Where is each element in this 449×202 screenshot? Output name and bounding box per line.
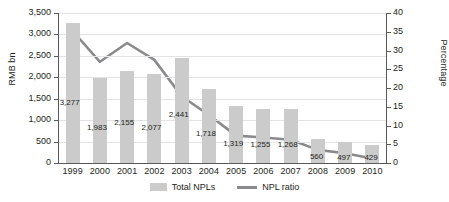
x-tick-label: 2002 [141, 166, 168, 176]
y-tick-label-left: 2,000 [3, 71, 51, 81]
y-tick-label-right: 15 [393, 101, 419, 111]
y-tick-label-right: 10 [393, 120, 419, 130]
y-axis-label-right: Percentage [439, 28, 449, 98]
bar-value-label: 2,441 [169, 110, 189, 119]
x-tick-label: 2009 [332, 166, 359, 176]
bar-value-label: 1,255 [250, 140, 270, 149]
y-tick-right [387, 144, 391, 145]
y-tick-left [54, 56, 58, 57]
x-tick-label: 1999 [59, 166, 86, 176]
y-tick-right [387, 88, 391, 89]
bar [147, 74, 161, 163]
bar-value-label: 1,268 [278, 140, 298, 149]
y-tick-right [387, 32, 391, 33]
line-swatch-icon [237, 186, 257, 189]
y-tick-left [54, 120, 58, 121]
bar [202, 89, 216, 163]
x-tick-label: 2007 [277, 166, 304, 176]
y-tick-label-left: 0 [3, 157, 51, 167]
y-tick-label-right: 20 [393, 82, 419, 92]
x-tick-label: 2004 [195, 166, 222, 176]
bar-value-label: 560 [310, 152, 323, 161]
y-tick-label-right: 30 [393, 45, 419, 55]
y-tick-right [387, 107, 391, 108]
y-tick-left [54, 77, 58, 78]
bar-swatch-icon [150, 183, 167, 191]
y-tick-label-left: 3,000 [3, 28, 51, 38]
legend-label-npl-ratio: NPL ratio [262, 182, 299, 192]
y-tick-label-right: 0 [393, 157, 419, 167]
y-tick-left [54, 13, 58, 14]
bar [120, 71, 134, 163]
gridline [59, 56, 386, 57]
y-tick-label-left: 500 [3, 136, 51, 146]
bar-value-label: 2,077 [141, 123, 161, 132]
gridline [59, 99, 386, 100]
y-tick-left [54, 34, 58, 35]
gridline [59, 77, 386, 78]
axis-line-bottom [58, 163, 387, 164]
npl-chart: RMB bn Percentage 05001,0001,5002,0002,5… [0, 0, 449, 202]
y-tick-right [387, 51, 391, 52]
y-tick-label-right: 5 [393, 138, 419, 148]
x-tick-label: 2010 [359, 166, 386, 176]
gridline [59, 13, 386, 14]
legend-item-npl-ratio: NPL ratio [237, 182, 299, 192]
bar [284, 109, 298, 163]
x-tick-label: 2000 [86, 166, 113, 176]
y-tick-label-right: 25 [393, 63, 419, 73]
legend-label-total-npls: Total NPLs [172, 182, 216, 192]
bar-value-label: 1,983 [87, 123, 107, 132]
y-tick-label-right: 40 [393, 7, 419, 17]
legend-item-total-npls: Total NPLs [150, 182, 216, 192]
x-tick-label: 2001 [114, 166, 141, 176]
y-tick-label-left: 3,500 [3, 7, 51, 17]
y-tick-left [54, 142, 58, 143]
y-tick-label-left: 1,000 [3, 114, 51, 124]
gridline [59, 34, 386, 35]
y-tick-right [387, 163, 391, 164]
bar [66, 23, 80, 163]
bar-value-label: 1,319 [223, 139, 243, 148]
bar-value-label: 429 [364, 153, 377, 162]
bar [256, 109, 270, 163]
bar-value-label: 3,277 [60, 98, 80, 107]
y-tick-label-left: 1,500 [3, 93, 51, 103]
y-tick-right [387, 69, 391, 70]
bar-value-label: 1,718 [196, 129, 216, 138]
bar-value-label: 2,155 [114, 118, 134, 127]
legend: Total NPLs NPL ratio [0, 182, 449, 192]
x-tick-label: 2005 [223, 166, 250, 176]
x-tick-label: 2008 [304, 166, 331, 176]
y-tick-left [54, 163, 58, 164]
y-axis-label-left: RMB bn [7, 39, 17, 99]
x-tick-label: 2006 [250, 166, 277, 176]
y-tick-left [54, 99, 58, 100]
y-tick-right [387, 13, 391, 14]
bar-value-label: 497 [337, 153, 350, 162]
bar [93, 78, 107, 163]
gridline [59, 120, 386, 121]
y-tick-label-right: 35 [393, 26, 419, 36]
y-tick-right [387, 126, 391, 127]
y-tick-label-left: 2,500 [3, 50, 51, 60]
bar [229, 106, 243, 163]
x-tick-label: 2003 [168, 166, 195, 176]
